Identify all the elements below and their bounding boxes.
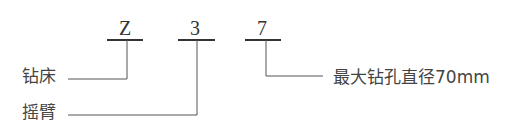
- code-group-7: 7: [245, 17, 323, 76]
- code-char-3: 3: [190, 17, 200, 39]
- label-max-drill-diameter: 最大钻孔直径70mm: [333, 67, 490, 87]
- leader-line-7: [266, 40, 323, 76]
- code-group-3: 3: [68, 17, 215, 115]
- label-radial-arm: 摇臂: [22, 102, 56, 122]
- code-char-7: 7: [257, 17, 267, 39]
- model-code-diagram: Z 3 7 钻床 摇臂 最大钻孔直径70mm: [0, 0, 525, 129]
- code-group-z: Z: [68, 17, 143, 79]
- label-drilling-machine: 钻床: [22, 66, 56, 86]
- leader-line-3: [68, 40, 197, 115]
- code-char-z: Z: [119, 17, 131, 39]
- leader-line-z: [68, 40, 127, 79]
